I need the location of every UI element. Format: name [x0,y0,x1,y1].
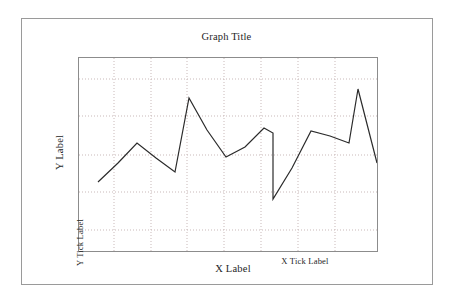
page-title: Graph Title [0,31,453,42]
data-series-line [98,89,377,199]
y-axis-label: Y Label [54,135,65,170]
x-tick-label: X Tick Label [272,256,338,266]
line-chart-svg [79,58,378,252]
x-axis-label: X Label [196,263,270,274]
plot-area [78,57,378,252]
grid-lines-horizontal [79,79,378,230]
y-tick-label: Y Tick Label [75,219,85,266]
figure-canvas: Graph Title Y Label Y Tick Label [0,0,453,306]
